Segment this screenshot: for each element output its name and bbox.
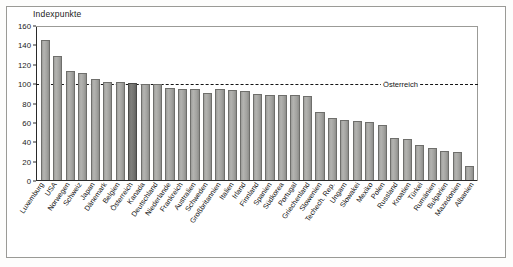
y-axis-tick-label: 100	[18, 80, 31, 89]
bar[interactable]	[315, 112, 324, 180]
bar[interactable]	[428, 148, 437, 180]
bar-slot	[326, 26, 338, 180]
bar-slot	[51, 26, 63, 180]
bar-slot	[439, 26, 451, 180]
bar[interactable]	[178, 89, 187, 180]
y-axis-tick-mark	[33, 64, 36, 65]
y-axis-tick-label: 40	[22, 138, 31, 147]
bar[interactable]	[365, 122, 374, 180]
bar[interactable]	[53, 56, 62, 180]
y-axis-tick-label: 60	[22, 118, 31, 127]
bar-slot	[276, 26, 288, 180]
bar-slot	[89, 26, 101, 180]
bar[interactable]	[66, 71, 75, 180]
bar[interactable]	[390, 138, 399, 180]
bar[interactable]	[165, 88, 174, 180]
bar-slot	[301, 26, 313, 180]
y-axis-tick-mark	[33, 122, 36, 123]
bar-slot	[201, 26, 213, 180]
bar[interactable]	[128, 83, 137, 180]
bar-slot	[214, 26, 226, 180]
bar-slot	[289, 26, 301, 180]
bar-slot	[401, 26, 413, 180]
plot-area: 020406080100120140160 Österreich	[36, 26, 478, 181]
bar[interactable]	[453, 152, 462, 180]
bar[interactable]	[278, 95, 287, 180]
y-axis-tick-label: 120	[18, 60, 31, 69]
bar-slot	[463, 26, 475, 180]
bar-series	[37, 26, 478, 180]
bar-slot	[151, 26, 163, 180]
bar[interactable]	[103, 82, 112, 180]
y-axis-tick-mark	[33, 142, 36, 143]
bar[interactable]	[116, 82, 125, 180]
chart-figure: Indexpunkte 020406080100120140160 Österr…	[0, 0, 513, 267]
bar[interactable]	[153, 84, 162, 180]
bar-slot	[226, 26, 238, 180]
y-axis-tick-mark	[33, 45, 36, 46]
bar[interactable]	[378, 125, 387, 180]
bar[interactable]	[203, 93, 212, 180]
y-axis-tick-label: 80	[22, 99, 31, 108]
bar[interactable]	[215, 89, 224, 180]
bar-slot	[376, 26, 388, 180]
bar-slot	[176, 26, 188, 180]
bar-slot	[426, 26, 438, 180]
bar-slot	[451, 26, 463, 180]
bar-slot	[364, 26, 376, 180]
bar-slot	[164, 26, 176, 180]
y-axis-tick-label: 0	[27, 177, 31, 186]
bar-slot	[251, 26, 263, 180]
bar-slot	[414, 26, 426, 180]
bar[interactable]	[265, 95, 274, 180]
bar-slot	[64, 26, 76, 180]
y-axis-tick-label: 160	[18, 22, 31, 31]
bar[interactable]	[190, 89, 199, 180]
bar-slot	[139, 26, 151, 180]
y-axis-tick-mark	[33, 181, 36, 182]
bar-slot	[351, 26, 363, 180]
bar[interactable]	[440, 151, 449, 180]
bar[interactable]	[353, 121, 362, 180]
y-axis-tick-mark	[33, 103, 36, 104]
bar[interactable]	[78, 73, 87, 180]
bar[interactable]	[415, 145, 424, 180]
bar-slot	[114, 26, 126, 180]
y-axis-tick-mark	[33, 26, 36, 27]
bar-slot	[339, 26, 351, 180]
bar-slot	[389, 26, 401, 180]
bar-slot	[189, 26, 201, 180]
bar[interactable]	[290, 95, 299, 180]
y-axis-tick-label: 20	[22, 157, 31, 166]
bar[interactable]	[228, 90, 237, 180]
bar[interactable]	[240, 91, 249, 180]
bar[interactable]	[253, 94, 262, 180]
bar[interactable]	[91, 79, 100, 180]
bar[interactable]	[41, 40, 50, 180]
y-axis-tick-label: 140	[18, 41, 31, 50]
bar[interactable]	[328, 118, 337, 180]
x-axis-labels: LuxemburgUSANorwegenSchweizJapanDänemark…	[36, 183, 478, 259]
bar-slot	[239, 26, 251, 180]
bar[interactable]	[340, 120, 349, 180]
bar-slot	[126, 26, 138, 180]
bar-slot	[101, 26, 113, 180]
bar-slot	[314, 26, 326, 180]
bar[interactable]	[303, 96, 312, 180]
bar-slot	[39, 26, 51, 180]
bar[interactable]	[465, 166, 474, 180]
bar[interactable]	[141, 84, 150, 180]
bar-slot	[264, 26, 276, 180]
bar[interactable]	[403, 139, 412, 180]
y-axis-tick-mark	[33, 161, 36, 162]
bar-slot	[76, 26, 88, 180]
y-axis-title: Indexpunkte	[33, 9, 82, 19]
